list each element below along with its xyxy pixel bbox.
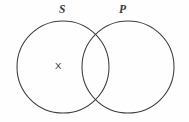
venn-diagram-canvas	[0, 0, 189, 122]
region-mark-x: X	[55, 61, 61, 71]
venn-diagram: S P X	[0, 0, 189, 122]
set-label-p: P	[119, 4, 126, 16]
set-label-s: S	[59, 4, 65, 16]
circle-set-p	[82, 21, 174, 113]
